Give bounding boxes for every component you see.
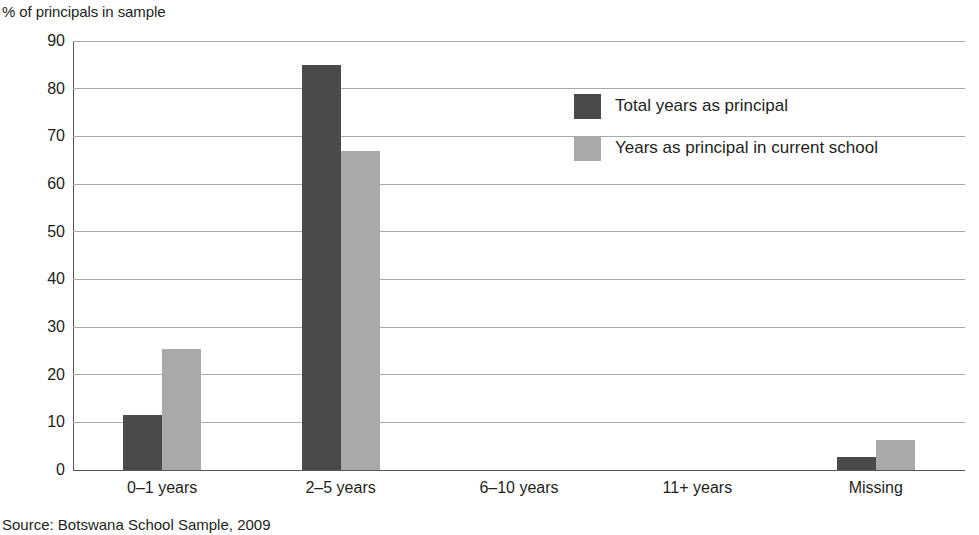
bar bbox=[876, 440, 915, 471]
x-tick-label: 0–1 years bbox=[73, 478, 251, 498]
x-tick-label: 11+ years bbox=[608, 478, 786, 498]
chart-legend: Total years as principalYears as princip… bbox=[574, 85, 878, 169]
bar bbox=[123, 415, 162, 470]
legend-label: Total years as principal bbox=[615, 96, 788, 116]
y-tick-label: 50 bbox=[3, 224, 65, 240]
legend-item: Total years as principal bbox=[574, 85, 878, 127]
y-tick-label: 80 bbox=[3, 81, 65, 97]
legend-swatch-icon bbox=[574, 94, 601, 119]
y-tick-label: 60 bbox=[3, 176, 65, 192]
x-tick-label: Missing bbox=[787, 478, 965, 498]
bar bbox=[302, 65, 341, 470]
y-tick-label: 0 bbox=[3, 462, 65, 478]
x-tick-label: 6–10 years bbox=[430, 478, 608, 498]
y-tick-label: 20 bbox=[3, 367, 65, 383]
x-axis-tick-labels: 0–1 years2–5 years6–10 years11+ yearsMis… bbox=[73, 478, 965, 504]
y-tick-label: 70 bbox=[3, 128, 65, 144]
source-note: Source: Botswana School Sample, 2009 bbox=[2, 516, 271, 533]
y-tick-label: 90 bbox=[3, 33, 65, 49]
y-tick-label: 10 bbox=[3, 414, 65, 430]
y-axis-tick-labels: 0102030405060708090 bbox=[0, 0, 65, 535]
y-tick-label: 40 bbox=[3, 271, 65, 287]
x-tick-label: 2–5 years bbox=[251, 478, 429, 498]
legend-item: Years as principal in current school bbox=[574, 127, 878, 169]
legend-label: Years as principal in current school bbox=[615, 138, 878, 158]
y-tick-label: 30 bbox=[3, 319, 65, 335]
bar bbox=[341, 151, 380, 470]
legend-swatch-icon bbox=[574, 136, 601, 161]
bar bbox=[837, 457, 876, 470]
bar bbox=[162, 349, 201, 470]
